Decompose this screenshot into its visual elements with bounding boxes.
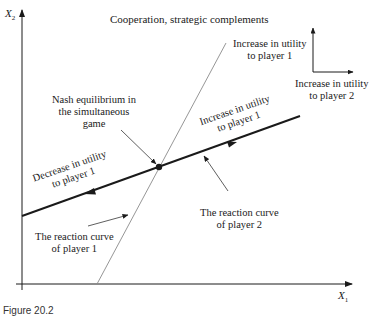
reaction-p1-pointer xyxy=(88,215,128,226)
nash-equilibrium-point xyxy=(156,164,162,170)
label-line: of player 2 xyxy=(200,219,279,231)
label-line: the simultaneous xyxy=(52,106,136,118)
diagram-title: Cooperation, strategic complements xyxy=(110,13,269,25)
label-line: Nash equilibrium in xyxy=(52,94,136,106)
label-line: to player 2 xyxy=(295,90,368,102)
figure-caption: Figure 20.2 xyxy=(3,305,54,316)
reaction-curve-player-1 xyxy=(97,43,226,284)
decrease-arrowhead xyxy=(84,188,96,195)
label-line: The reaction curve xyxy=(35,231,114,243)
label-line: game xyxy=(52,118,136,130)
nash-pointer xyxy=(121,130,156,164)
x-axis-label: X1 xyxy=(338,289,348,304)
increase-utility-p2-label: Increase in utility to player 2 xyxy=(295,78,368,102)
label-line: to player 1 xyxy=(233,50,306,62)
x-axis-symbol: X xyxy=(338,289,345,301)
reaction-curve-p1-label: The reaction curve of player 1 xyxy=(35,231,114,255)
label-line: Increase in utility xyxy=(233,38,306,50)
y-axis-symbol: X xyxy=(5,7,12,19)
label-line: The reaction curve xyxy=(200,207,279,219)
label-line: of player 1 xyxy=(35,243,114,255)
label-line: Increase in utility xyxy=(295,78,368,90)
reaction-curve-p2-label: The reaction curve of player 2 xyxy=(200,207,279,231)
y-axis-label: X2 xyxy=(5,7,15,22)
y-axis-subscript: 2 xyxy=(12,14,16,22)
nash-equilibrium-label: Nash equilibrium in the simultaneous gam… xyxy=(52,94,136,130)
reaction-p2-pointer xyxy=(204,156,228,191)
x-axis-subscript: 1 xyxy=(345,296,349,304)
increase-arrowhead xyxy=(227,142,237,148)
increase-utility-p1-label: Increase in utility to player 1 xyxy=(233,38,306,62)
